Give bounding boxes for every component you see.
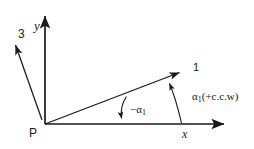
ccw-angle-arc [170,84,182,124]
ray-1-label: 1 [193,62,199,73]
ccw-angle-label: α1(+c.c.w) [192,91,238,104]
ray-1-line [45,73,180,125]
negative-angle-label: −α1 [130,104,146,117]
vector-3-line [16,45,43,120]
negative-angle-arc [121,97,126,119]
angle-rotation-diagram: y x P 3 1 −α1 α1(+c.c.w) [0,0,254,149]
negative-angle-subscript: 1 [142,108,146,117]
vector-3-label: 3 [18,28,25,40]
negative-angle-symbol: −α [130,103,142,115]
y-axis-label: y [34,19,40,32]
ccw-angle-suffix: (+c.c.w) [202,90,239,102]
origin-point-label: P [29,127,37,139]
x-axis-label: x [182,128,187,140]
